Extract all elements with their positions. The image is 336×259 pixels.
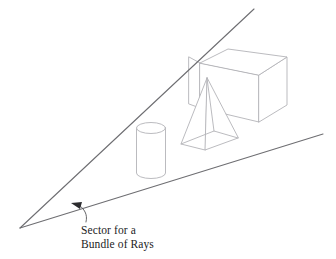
diagram-canvas: Sector for a Bundle of Rays [0, 0, 336, 259]
caption-line-2: Bundle of Rays [81, 238, 154, 252]
sector-caption: Sector for a Bundle of Rays [81, 224, 154, 251]
cylinder-shape [137, 123, 166, 179]
caption-line-1: Sector for a [81, 224, 154, 238]
cylinder-top-ellipse [137, 123, 166, 134]
annotation-arrow-head [71, 202, 82, 209]
lower-ray-line [20, 134, 323, 228]
cylinder-body [137, 128, 166, 179]
diagram-svg [0, 0, 336, 259]
